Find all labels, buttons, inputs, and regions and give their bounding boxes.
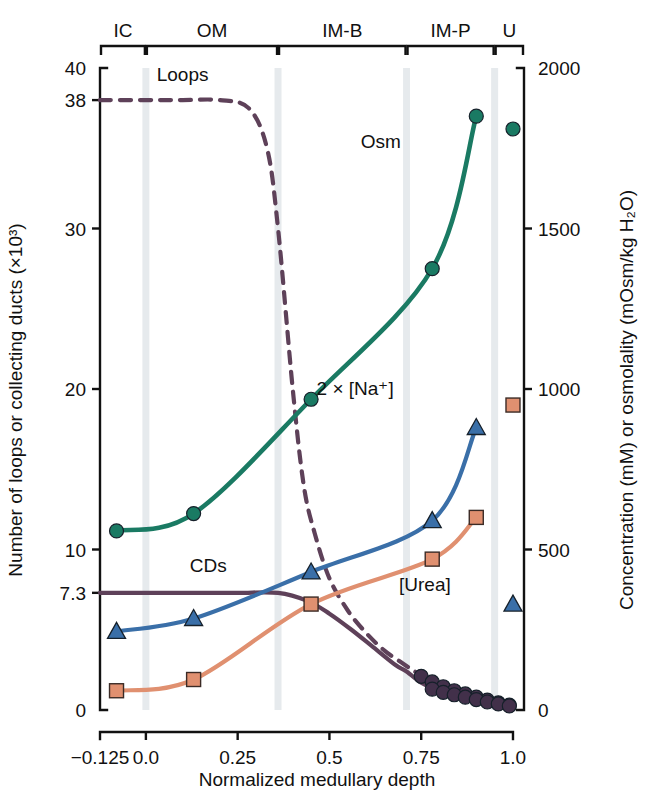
zone-label-IC: IC xyxy=(113,20,132,41)
y-tick-label-5: 38 xyxy=(65,90,86,111)
osm-label: Osm xyxy=(361,131,401,152)
urine-marker-Na-urine xyxy=(504,595,522,611)
zone-band-1 xyxy=(275,68,282,710)
figure-container: 07.310203038400500100015002000−0.1250.00… xyxy=(0,0,649,798)
axes: 07.310203038400500100015002000−0.1250.00… xyxy=(60,58,581,768)
zone-label-OM: OM xyxy=(197,20,228,41)
marker-[Urea]-3 xyxy=(425,552,439,566)
marker-[Urea]-1 xyxy=(187,673,201,687)
y-axis-title: Number of loops or collecting ducts (×10… xyxy=(5,223,26,576)
marker-Osm-4 xyxy=(469,109,483,123)
marker-[Urea]-4 xyxy=(469,510,483,524)
urine-marker-Urea-urine xyxy=(506,398,520,412)
loops-label: Loops xyxy=(157,64,209,85)
series-layer xyxy=(100,100,476,691)
chart-svg: 07.310203038400500100015002000−0.1250.00… xyxy=(0,0,649,798)
x-tick-label-2: 0.25 xyxy=(219,747,256,768)
zone-label-IMB: IM-B xyxy=(322,20,362,41)
marker-Osm-3 xyxy=(425,262,439,276)
x-axis-line xyxy=(100,732,513,739)
y2-axis-line xyxy=(517,68,524,710)
na-label: 2 × [Na⁺] xyxy=(317,378,394,399)
urea-label: [Urea] xyxy=(399,574,451,595)
zone-bracket-IC xyxy=(101,46,145,55)
zone-bracket-IMB xyxy=(279,46,405,55)
marker-Osm-0 xyxy=(110,524,124,538)
y2-tick-label-3: 1500 xyxy=(538,219,580,240)
y-tick-label-2: 10 xyxy=(65,540,86,561)
zone-label-IMP: IM-P xyxy=(431,20,471,41)
y-tick-label-0: 0 xyxy=(75,700,86,721)
series-line-[Urea] xyxy=(117,517,477,690)
y2-tick-label-2: 1000 xyxy=(538,379,580,400)
zone-band-0 xyxy=(142,68,149,710)
y2-tick-label-4: 2000 xyxy=(538,58,580,79)
x-tick-label-3: 0.5 xyxy=(316,747,342,768)
zone-band-3 xyxy=(491,68,498,710)
y-axis-line xyxy=(100,68,107,710)
x-tick-label-4: 0.75 xyxy=(403,747,440,768)
y-tick-label-3: 20 xyxy=(65,379,86,400)
y2-axis-title: Concentration (mM) or osmolality (mOsm/k… xyxy=(616,190,637,610)
zone-brackets: ICOMIM-BIM-PU xyxy=(101,20,523,55)
zone-bracket-OM xyxy=(147,46,277,55)
cds-label: CDs xyxy=(190,555,227,576)
series-line-Osm xyxy=(117,116,477,531)
y-tick-label-1: 7.3 xyxy=(60,583,86,604)
x-tick-label-0: −0.125 xyxy=(71,747,130,768)
marker-Osm-1 xyxy=(187,507,201,521)
urine-marker-Osm-urine xyxy=(506,122,520,136)
marker-[Urea]-0 xyxy=(110,684,124,698)
x-tick-label-5: 1.0 xyxy=(500,747,526,768)
y-tick-label-6: 40 xyxy=(65,58,86,79)
x-axis-title: Normalized medullary depth xyxy=(199,769,436,790)
y2-tick-label-0: 0 xyxy=(538,700,549,721)
marker-2 x [Na+]-4 xyxy=(467,419,485,435)
series-line-CDs xyxy=(100,592,432,687)
marker-[Urea]-2 xyxy=(304,597,318,611)
y-tick-label-4: 30 xyxy=(65,219,86,240)
marker-CDs-tail-markers-7 xyxy=(502,699,516,713)
y2-tick-label-1: 500 xyxy=(538,540,570,561)
zone-band-2 xyxy=(403,68,410,710)
zone-bracket-IMP xyxy=(408,46,494,55)
series-line-2 x [Na+] xyxy=(117,428,477,632)
zone-bracket-U xyxy=(496,46,523,55)
zone-label-U: U xyxy=(502,20,516,41)
x-tick-label-1: 0.0 xyxy=(133,747,159,768)
